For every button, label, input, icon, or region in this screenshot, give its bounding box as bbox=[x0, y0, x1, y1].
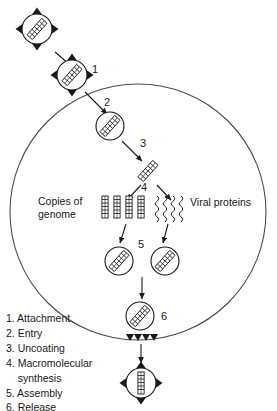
legend-item-2: 2. Entry bbox=[6, 326, 92, 341]
legend-item-4-cont: synthesis bbox=[6, 371, 92, 386]
figure-canvas: 1 2 3 4 5 6 Copies of genome Viral prote… bbox=[0, 0, 277, 411]
legend-item-6: 6. Release bbox=[6, 400, 92, 411]
assembled-particle-left bbox=[105, 247, 133, 275]
step-number-5: 5 bbox=[138, 238, 144, 251]
arrow-uncoating bbox=[122, 141, 142, 161]
released-virion bbox=[120, 362, 163, 405]
legend-item-5: 5. Assembly bbox=[6, 386, 92, 401]
uncoated-genome bbox=[138, 160, 158, 181]
budding-virion bbox=[126, 302, 154, 330]
legend-item-3: 3. Uncoating bbox=[6, 341, 92, 356]
legend-item-4: 4. Macromolecular bbox=[6, 356, 92, 371]
virion-attached-to-membrane bbox=[51, 54, 94, 97]
step-number-1: 1 bbox=[92, 63, 98, 76]
arrow-proteins-to-assembly bbox=[163, 224, 168, 243]
step-number-6: 6 bbox=[161, 310, 167, 323]
legend-item-1: 1. Attachment bbox=[6, 311, 92, 326]
step-number-4: 4 bbox=[141, 181, 147, 194]
genome-copies-group bbox=[102, 196, 144, 218]
legend: 1. Attachment 2. Entry 3. Uncoating 4. M… bbox=[6, 311, 92, 411]
arrow-to-viral-proteins bbox=[157, 185, 171, 200]
step-number-3: 3 bbox=[140, 137, 146, 150]
virion-extracellular bbox=[16, 8, 59, 51]
viral-proteins-group bbox=[155, 196, 182, 222]
genome-copies-label-line1: Copies of bbox=[38, 195, 82, 207]
arrow-genome-to-assembly bbox=[120, 224, 126, 243]
assembled-particle-right bbox=[151, 247, 179, 275]
viral-proteins-label: Viral proteins bbox=[190, 196, 251, 208]
endosome-vesicle bbox=[96, 112, 124, 140]
step-number-2: 2 bbox=[104, 96, 110, 109]
genome-copies-label-line2: genome bbox=[38, 208, 76, 220]
